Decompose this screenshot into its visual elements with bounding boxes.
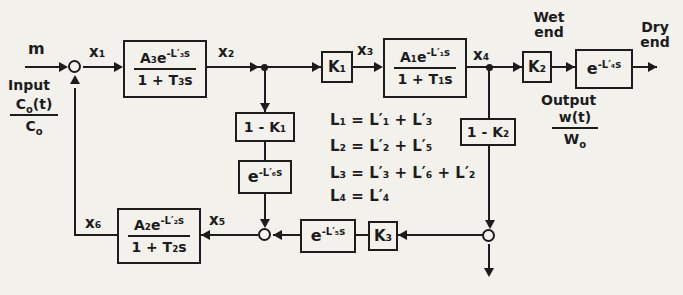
- block-diagram: m Input Co(t) Co x₁ A₃e-L′₃s 1 + T₃s x₂ …: [0, 0, 683, 295]
- d4-expression: e-L′₄s: [587, 61, 621, 77]
- sum-junction-x5: [258, 228, 271, 241]
- branch-node-bottom-right: [482, 229, 495, 242]
- arrow-into-g3: [114, 62, 123, 72]
- sum-junction-input: [68, 60, 81, 73]
- input-den-sub: o: [36, 126, 43, 137]
- arrow-output: [648, 62, 657, 72]
- arrow-into-d4: [566, 62, 575, 72]
- g2-num-base: A₂e: [134, 217, 160, 233]
- arrow-into-sum1-bottom: [70, 75, 80, 84]
- input-fraction: Co(t) Co: [10, 96, 58, 134]
- block-g3-denominator: 1 + T₃s: [134, 68, 195, 88]
- d4-base: e: [587, 59, 598, 78]
- g1-exponent: -L′₁s: [426, 47, 450, 58]
- block-g3-transfer: A₃e-L′₃s 1 + T₃s: [123, 40, 207, 98]
- input-num-sub: o: [26, 104, 33, 115]
- signal-x6-label: x₆: [85, 215, 101, 232]
- wire-feedback-v: [74, 88, 76, 236]
- block-g1-denominator: 1 + T₁s: [394, 67, 455, 87]
- block-k1-label: K₁: [328, 60, 346, 75]
- output-caption: Output: [541, 93, 596, 108]
- dry-end-label: Dry end: [633, 20, 677, 51]
- block-g2-numerator: A₂e-L′₂s: [128, 217, 189, 235]
- wire-junction-exit: [488, 244, 490, 268]
- block-delay-d6: e-L′₆s: [238, 160, 292, 194]
- legend-line-4: L₄ = L′₄: [330, 188, 389, 205]
- d6-exponent: -L′₆s: [259, 167, 283, 178]
- block-g3-numerator: A₃e-L′₃s: [134, 50, 195, 68]
- block-g1-fraction: A₁e-L′₁s 1 + T₁s: [394, 49, 455, 87]
- input-den-base: C: [25, 118, 35, 134]
- block-k1: K₁: [321, 51, 353, 83]
- block-one-minus-k2: 1 - K₂: [460, 118, 516, 146]
- block-k3: K₃: [368, 221, 398, 251]
- input-num-rest: (t): [33, 96, 53, 112]
- block-g2-denominator: 1 + T₂s: [128, 235, 189, 255]
- d4-exponent: -L′₄s: [598, 59, 622, 70]
- block-delay-d5: e-L′₅s: [300, 219, 356, 253]
- signal-x1-label: x₁: [89, 44, 105, 61]
- arrow-into-sum2-top: [260, 219, 270, 228]
- wire-1mk2-junction: [488, 146, 490, 222]
- output-den-sub: o: [579, 139, 586, 150]
- g3-exponent: -L′₃s: [166, 48, 190, 59]
- arrow-into-k1: [312, 62, 321, 72]
- block-one-minus-k1: 1 - K₁: [235, 112, 295, 142]
- arrow-into-x2-node: [250, 62, 259, 72]
- wire-input: [25, 66, 61, 68]
- output-fraction-denominator: Wo: [552, 127, 598, 147]
- signal-x5-label: x₅: [209, 212, 225, 229]
- block-k3-label: K₃: [374, 229, 392, 244]
- d6-base: e: [248, 167, 259, 186]
- wire-x4-branch-down: [488, 68, 490, 118]
- d5-base: e: [311, 226, 322, 245]
- g2-exponent: -L′₂s: [160, 215, 184, 226]
- one-minus-k2-label: 1 - K₂: [467, 125, 509, 139]
- block-g1-transfer: A₁e-L′₁s 1 + T₁s: [383, 38, 467, 98]
- legend-line-3: L₃ = L′₃ + L′₆ + L′₂: [330, 165, 475, 182]
- wire-d6-sum2: [264, 194, 266, 222]
- output-fraction: w(t) Wo: [552, 109, 598, 147]
- legend-line-2: L₂ = L′₂ + L′₅: [330, 138, 432, 155]
- block-g2-fraction: A₂e-L′₂s 1 + T₂s: [128, 217, 189, 255]
- arrow-into-g2: [201, 230, 210, 240]
- legend-line-1: L₁ = L′₁ + L′₃: [330, 112, 432, 129]
- block-g1-numerator: A₁e-L′₁s: [394, 49, 455, 67]
- output-fraction-numerator: w(t): [552, 109, 598, 127]
- input-fraction-denominator: Co: [10, 114, 58, 134]
- arrow-into-junction: [485, 220, 495, 229]
- block-k2-label: K₂: [528, 60, 546, 75]
- block-delay-d4: e-L′₄s: [575, 49, 633, 89]
- output-den-base: W: [564, 131, 579, 147]
- arrow-into-g1: [374, 62, 383, 72]
- wire-1mk1-d6: [264, 142, 266, 160]
- block-g2-transfer: A₂e-L′₂s 1 + T₂s: [117, 208, 201, 264]
- arrow-into-input-sum: [59, 62, 68, 72]
- wire-k3-d5: [356, 234, 368, 236]
- g3-num-base: A₃e: [140, 50, 166, 66]
- input-caption: Input: [8, 78, 50, 93]
- arrow-into-1mk1: [260, 103, 270, 112]
- block-k2: K₂: [522, 51, 552, 83]
- arrow-exit-down: [484, 268, 494, 277]
- signal-x3-label: x₃: [357, 42, 373, 59]
- d5-expression: e-L′₅s: [311, 228, 345, 244]
- input-fraction-numerator: Co(t): [10, 96, 58, 114]
- wire-junction-k3: [398, 234, 483, 236]
- wire-sum1-g3: [83, 66, 116, 68]
- d6-expression: e-L′₆s: [248, 169, 282, 185]
- input-num-base: C: [16, 96, 26, 112]
- arrow-into-sum2-right: [273, 230, 282, 240]
- arrow-into-k3: [398, 230, 407, 240]
- g1-num-base: A₁e: [400, 49, 426, 65]
- wire-g2-feedback-h: [74, 234, 117, 236]
- input-signal-label: m: [28, 40, 45, 58]
- signal-x2-label: x₂: [218, 44, 234, 61]
- wet-end-label: Wet end: [524, 10, 574, 41]
- arrow-into-k2: [513, 62, 522, 72]
- d5-exponent: -L′₅s: [322, 226, 346, 237]
- signal-x4-label: x₄: [473, 47, 489, 64]
- block-g3-fraction: A₃e-L′₃s 1 + T₃s: [134, 50, 195, 88]
- one-minus-k1-label: 1 - K₁: [244, 120, 286, 134]
